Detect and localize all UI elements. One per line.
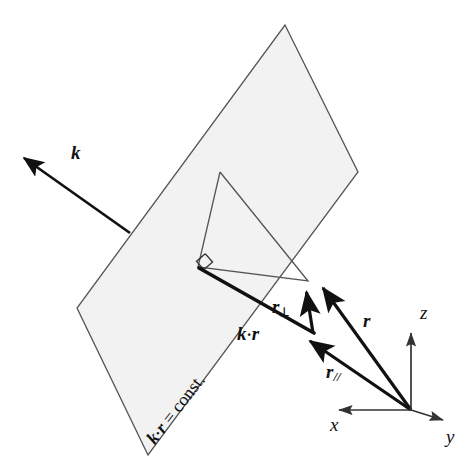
physics-diagram-figure: k k·r r⊥ r r// x y z k·r = const.: [0, 0, 468, 476]
vector-r-perp-label: r⊥: [272, 297, 289, 318]
vector-r-parallel-label: r//: [326, 362, 341, 383]
constant-phase-plane: [77, 25, 358, 455]
vector-k-arrow: [24, 158, 130, 233]
vector-r-perp-arrow: [307, 292, 314, 333]
vector-r-arrow: [323, 288, 411, 410]
vector-k-label: k: [71, 143, 81, 162]
axis-y-label: y: [446, 427, 454, 446]
axis-y-arrow: [411, 410, 443, 420]
axis-x-label: x: [330, 415, 338, 434]
axis-z-label: z: [420, 303, 427, 322]
diagram-canvas: [0, 0, 468, 476]
vector-k-dot-r-label: k·r: [237, 324, 259, 343]
vector-r-label: r: [363, 311, 370, 330]
